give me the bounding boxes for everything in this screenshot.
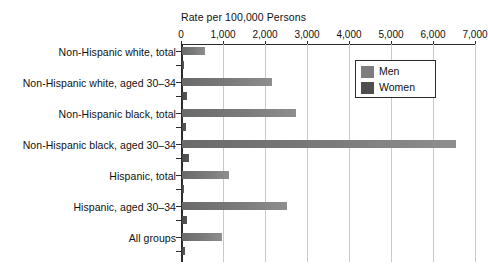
category-tick-mark <box>176 96 181 97</box>
category-label: Non-Hispanic black, aged 30–34 <box>23 139 176 151</box>
x-tick-label: 3,000 <box>294 29 319 40</box>
chart-category-row: Non-Hispanic black, aged 30–34 <box>0 137 485 168</box>
legend-label-women: Women <box>379 82 415 93</box>
bar-men <box>182 78 272 86</box>
category-label: Non-Hispanic black, total <box>59 108 176 120</box>
bar-women <box>182 247 185 255</box>
legend-swatch-women-icon <box>361 82 374 94</box>
category-tick-mark <box>176 82 181 83</box>
category-tick-mark <box>176 51 181 52</box>
legend-item-women: Women <box>361 81 415 94</box>
category-tick-mark <box>176 237 181 238</box>
category-tick-mark <box>176 220 181 221</box>
bar-women <box>182 216 187 224</box>
bar-men <box>182 202 287 210</box>
category-tick-mark <box>176 206 181 207</box>
chart-category-row: All groups <box>0 230 485 261</box>
legend-item-men: Men <box>361 65 399 78</box>
category-tick-mark <box>176 251 181 252</box>
category-tick-mark <box>176 144 181 145</box>
bar-women <box>182 154 189 162</box>
bar-men <box>182 109 296 117</box>
legend-label-men: Men <box>379 66 399 77</box>
x-axis-title: Rate per 100,000 Persons <box>181 11 306 23</box>
bar-men <box>182 233 222 241</box>
category-tick-mark <box>176 65 181 66</box>
category-label: Non-Hispanic white, total <box>59 46 176 58</box>
x-tick-label: 2,000 <box>252 29 277 40</box>
category-tick-mark <box>176 113 181 114</box>
bar-men <box>182 140 456 148</box>
category-tick-mark <box>176 127 181 128</box>
x-tick-label: 7,000 <box>462 29 487 40</box>
bar-men <box>182 171 229 179</box>
bar-women <box>182 123 186 131</box>
x-tick-label: 1,000 <box>210 29 235 40</box>
bar-men <box>182 47 205 55</box>
x-tick-label: 6,000 <box>420 29 445 40</box>
bar-women <box>182 61 184 69</box>
category-tick-mark <box>176 175 181 176</box>
category-label: All groups <box>129 232 176 244</box>
bar-women <box>182 185 184 193</box>
legend-swatch-men-icon <box>361 66 374 78</box>
chart-category-row: Non-Hispanic black, total <box>0 106 485 137</box>
category-label: Non-Hispanic white, aged 30–34 <box>23 77 176 89</box>
category-label: Hispanic, total <box>109 170 176 182</box>
chart-legend: Men Women <box>355 60 436 98</box>
category-tick-mark <box>176 158 181 159</box>
bar-women <box>182 92 187 100</box>
x-tick-label: 4,000 <box>336 29 361 40</box>
chart-category-row: Hispanic, aged 30–34 <box>0 199 485 230</box>
chart-category-row: Hispanic, total <box>0 168 485 199</box>
category-tick-mark <box>176 189 181 190</box>
x-tick-label: 0 <box>178 29 184 40</box>
x-tick-label: 5,000 <box>378 29 403 40</box>
category-label: Hispanic, aged 30–34 <box>73 201 176 213</box>
